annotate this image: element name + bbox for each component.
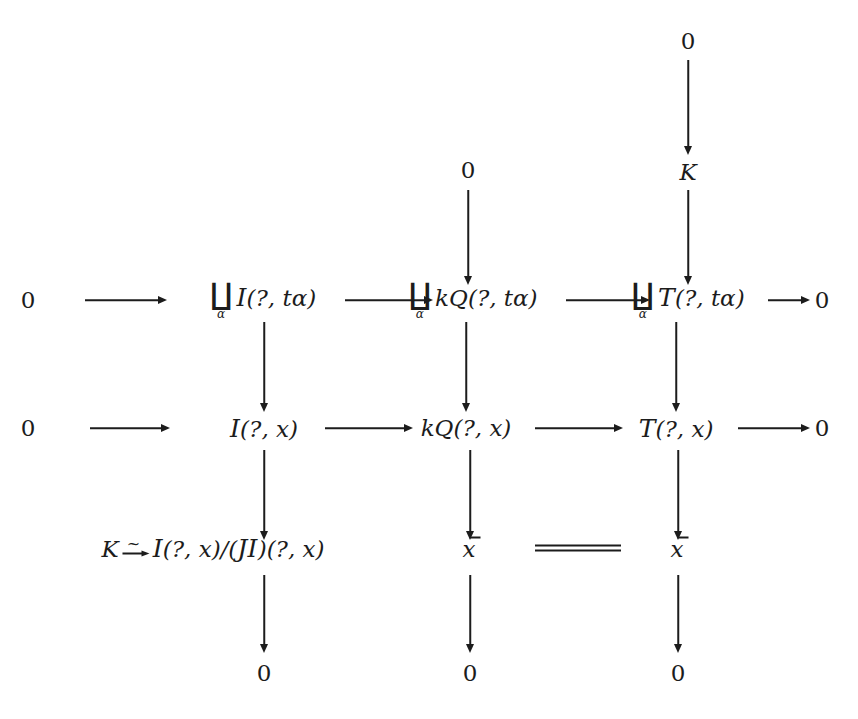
- arrow-row2-zero-to-c1: [90, 422, 170, 434]
- node-row2-right-zero: 0: [815, 417, 830, 440]
- x-bar-glyph: x: [671, 538, 686, 561]
- row1-col3-args: (?, tα): [675, 285, 745, 311]
- node-row1-col3: ∐ α T(?, tα): [631, 281, 744, 319]
- node-top-right-K: K: [679, 161, 696, 184]
- arrow-top-right-K-to-row1: [682, 190, 694, 285]
- row3-col1-K: K: [101, 536, 118, 562]
- arrow-col2-row1-to-row2: [460, 322, 472, 412]
- arrow-top-right-zero-to-K: [682, 60, 694, 155]
- node-top-mid-zero: 0: [461, 159, 476, 182]
- arrow-col2-row2-to-row3: [464, 450, 476, 540]
- row1-col1-args: (?, tα): [247, 285, 317, 311]
- row1-col2-label: kQ: [435, 285, 468, 311]
- arrow-col3-row1-to-row2: [670, 322, 682, 412]
- arrow-row1-zero-to-c1: [85, 294, 167, 306]
- arrow-row1-c3-to-zero: [768, 294, 810, 306]
- arrow-row2-c1-to-c2: [325, 422, 413, 434]
- script-T-glyph: T: [658, 283, 675, 312]
- row3-col1-quotient-args: (?, x): [267, 536, 325, 562]
- script-I-glyph: I: [236, 283, 246, 312]
- arrow-col1-row1-to-row2: [258, 322, 270, 412]
- node-row4-col3-zero: 0: [671, 662, 686, 685]
- node-row2-col3: T(?, x): [639, 416, 714, 441]
- script-I-glyph: I: [153, 534, 163, 563]
- script-I-glyph: I: [230, 414, 240, 443]
- coproduct-symbol: ∐ α: [210, 282, 233, 320]
- script-J-glyph: J: [237, 534, 247, 563]
- node-row1-left-zero: 0: [21, 289, 36, 312]
- node-row1-col1: ∐ α I(?, tα): [210, 281, 316, 319]
- equality-double-line: [535, 545, 621, 552]
- node-row2-col1: I(?, x): [230, 416, 298, 441]
- commutative-diagram: 0 K 0 0 ∐ α I(?, tα) ∐ α kQ(?, tα): [0, 0, 858, 719]
- node-row3-col1: K ~ I(?, x)/(JI)(?, x): [101, 536, 324, 561]
- row2-col1-args: (?, x): [240, 416, 298, 442]
- row3-col1-quotient-open: (?, x)/(: [163, 536, 238, 562]
- node-row4-col1-zero: 0: [257, 662, 272, 685]
- node-row2-col2: kQ(?, x): [421, 417, 512, 440]
- node-row3-col3: x: [671, 538, 686, 561]
- row2-col3-args: (?, x): [656, 416, 714, 442]
- row1-col2-args: (?, tα): [468, 285, 538, 311]
- node-row1-right-zero: 0: [815, 289, 830, 312]
- node-row4-col2-zero: 0: [463, 662, 478, 685]
- iso-arrow-icon: ~: [123, 541, 150, 561]
- coproduct-symbol: ∐ α: [631, 282, 654, 320]
- node-row1-col2: ∐ α kQ(?, tα): [408, 281, 537, 319]
- node-row3-col2: x: [463, 538, 478, 561]
- node-row2-left-zero: 0: [21, 417, 36, 440]
- row2-col2-label: kQ: [421, 415, 454, 441]
- script-T-glyph: T: [639, 414, 656, 443]
- script-I-glyph-2: I: [248, 534, 258, 563]
- arrow-row2-c2-to-c3: [535, 422, 623, 434]
- arrow-col3-row2-to-row3: [672, 450, 684, 540]
- row2-col2-args: (?, x): [453, 415, 511, 441]
- arrow-col2-row3-to-row4: [464, 575, 476, 653]
- x-bar-glyph: x: [463, 538, 478, 561]
- node-top-right-zero: 0: [681, 30, 696, 53]
- coproduct-symbol: ∐ α: [408, 282, 431, 320]
- arrow-col1-row2-to-row3: [258, 450, 270, 540]
- arrow-col3-row3-to-row4: [672, 575, 684, 653]
- arrow-col1-row3-to-row4: [258, 575, 270, 653]
- arrow-row2-c3-to-zero: [738, 422, 810, 434]
- arrow-top-mid-zero-to-row1: [462, 190, 474, 285]
- row3-col1-quotient-close: ): [258, 536, 267, 562]
